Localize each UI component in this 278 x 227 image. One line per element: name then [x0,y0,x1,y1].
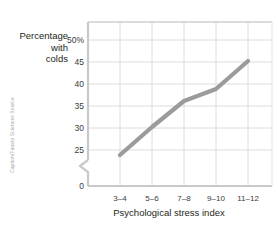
chart-figure: Caption/Fausto Sciences Source Percentag… [0,0,278,227]
plot-area [0,0,278,227]
horizontal-gridlines [88,40,272,150]
vertical-gridlines [120,22,248,186]
y-axis-break-symbol [80,160,88,186]
